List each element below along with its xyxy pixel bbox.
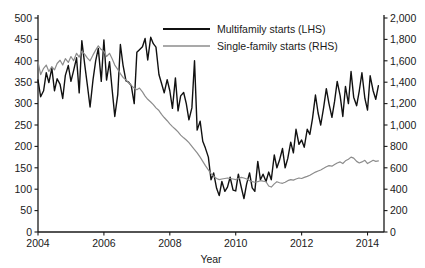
- x-axis-title: Year: [200, 253, 222, 265]
- series-line-1: [38, 37, 378, 198]
- right-axis-tick-label: 1,800: [390, 33, 416, 45]
- right-axis-tick-label: 400: [390, 183, 408, 195]
- left-axis-tick-label: 0: [26, 226, 32, 238]
- left-axis-tick-label: 500: [14, 12, 32, 24]
- right-axis-tick-label: 2,000: [390, 12, 416, 24]
- x-axis-tick-label: 2014: [356, 237, 380, 249]
- x-axis-tick-label: 2012: [290, 237, 314, 249]
- right-axis-tick-label: 0: [390, 226, 396, 238]
- right-axis-tick-label: 1,400: [390, 76, 416, 88]
- series-line-2: [38, 46, 378, 187]
- left-axis-tick-label: 300: [14, 97, 32, 109]
- right-axis-tick-label: 1,200: [390, 97, 416, 109]
- x-axis-tick-label: 2004: [26, 237, 50, 249]
- left-axis-tick-label: 50: [20, 204, 32, 216]
- left-axis-tick-label: 100: [14, 183, 32, 195]
- right-axis-tick-label: 800: [390, 140, 408, 152]
- right-axis-tick-label: 200: [390, 204, 408, 216]
- right-axis-tick-label: 1,000: [390, 119, 416, 131]
- left-axis-tick-label: 350: [14, 76, 32, 88]
- left-axis-tick-label: 250: [14, 119, 32, 131]
- left-axis-tick-label: 450: [14, 33, 32, 45]
- legend-label-2: Single-family starts (RHS): [217, 40, 338, 52]
- right-axis-tick-label: 1,600: [390, 55, 416, 67]
- legend-label-1: Multifamily starts (LHS): [217, 23, 326, 35]
- line-chart: 0501001502002503003504004505000200400600…: [0, 0, 425, 268]
- x-axis-tick-label: 2008: [158, 237, 182, 249]
- x-axis-tick-label: 2006: [92, 237, 116, 249]
- left-axis-tick-label: 150: [14, 162, 32, 174]
- chart-container: 0501001502002503003504004505000200400600…: [0, 0, 425, 268]
- left-axis-tick-label: 200: [14, 140, 32, 152]
- left-axis-tick-label: 400: [14, 55, 32, 67]
- x-axis-tick-label: 2010: [224, 237, 248, 249]
- right-axis-tick-label: 600: [390, 162, 408, 174]
